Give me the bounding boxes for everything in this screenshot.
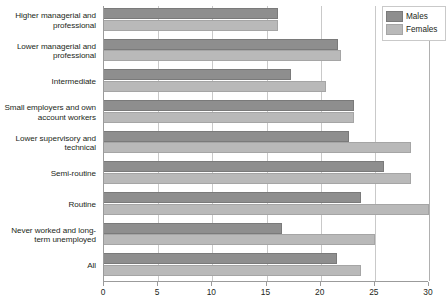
- bar-males: [104, 100, 354, 111]
- bar-group: [104, 37, 428, 68]
- plot-area: [103, 6, 428, 282]
- bar-males: [104, 223, 282, 234]
- x-tick-label-5: 5: [155, 287, 160, 297]
- x-tick-mark-0: [103, 282, 104, 286]
- y-axis-label-7: Never worked and long-term unemployed: [0, 226, 96, 245]
- y-axis-label-8: All: [0, 261, 96, 271]
- y-axis-label-line: account workers: [0, 113, 96, 123]
- bar-chart: Higher managerial andprofessionalLower m…: [0, 0, 448, 305]
- x-tick-mark-20: [320, 282, 321, 286]
- y-axis-label-line: Never worked and long-: [0, 226, 96, 236]
- y-axis-label-2: Intermediate: [0, 77, 96, 87]
- bar-males: [104, 161, 384, 172]
- bar-group: [104, 159, 428, 190]
- bar-males: [104, 253, 337, 264]
- x-tick-mark-5: [157, 282, 158, 286]
- legend-swatch-females-icon: [386, 24, 403, 35]
- chart-legend: Males Females: [382, 6, 446, 41]
- bar-females: [104, 112, 354, 123]
- x-tick-label-25: 25: [369, 287, 378, 297]
- legend-swatch-males-icon: [386, 11, 403, 22]
- legend-item-females: Females: [386, 23, 443, 36]
- bar-group: [104, 98, 428, 129]
- bar-females: [104, 20, 278, 31]
- y-axis-label-5: Semi-routine: [0, 169, 96, 179]
- bar-females: [104, 204, 429, 215]
- bar-males: [104, 39, 338, 50]
- bar-group: [104, 129, 428, 160]
- y-axis-label-line: Routine: [0, 200, 96, 210]
- gridline-30: [429, 6, 430, 281]
- y-axis-label-line: Small employers and own: [0, 103, 96, 113]
- y-axis-label-line: Lower managerial and: [0, 42, 96, 52]
- bar-females: [104, 142, 411, 153]
- y-axis-label-line: All: [0, 261, 96, 271]
- y-axis-label-0: Higher managerial andprofessional: [0, 11, 96, 30]
- bar-females: [104, 234, 375, 245]
- y-axis-label-4: Lower supervisory andtechnical: [0, 134, 96, 153]
- legend-item-males: Males: [386, 10, 443, 23]
- bar-group: [104, 221, 428, 252]
- x-tick-mark-15: [266, 282, 267, 286]
- y-axis-label-line: professional: [0, 51, 96, 61]
- bar-females: [104, 81, 326, 92]
- y-axis-label-line: Semi-routine: [0, 169, 96, 179]
- bar-group: [104, 251, 428, 282]
- bar-males: [104, 131, 349, 142]
- legend-label-females: Females: [406, 25, 437, 34]
- y-axis-label-line: technical: [0, 143, 96, 153]
- y-axis-label-line: Higher managerial and: [0, 11, 96, 21]
- x-tick-label-0: 0: [101, 287, 106, 297]
- y-axis-label-1: Lower managerial andprofessional: [0, 42, 96, 61]
- y-axis-label-line: term unemployed: [0, 235, 96, 245]
- bar-group: [104, 6, 428, 37]
- bar-females: [104, 173, 411, 184]
- x-tick-label-15: 15: [261, 287, 270, 297]
- y-axis-label-line: Lower supervisory and: [0, 134, 96, 144]
- bar-females: [104, 265, 361, 276]
- x-tick-mark-30: [428, 282, 429, 286]
- x-tick-mark-10: [211, 282, 212, 286]
- y-axis-label-3: Small employers and ownaccount workers: [0, 103, 96, 122]
- x-tick-label-30: 30: [423, 287, 432, 297]
- y-axis-label-line: Intermediate: [0, 77, 96, 87]
- y-axis-label-6: Routine: [0, 200, 96, 210]
- x-tick-label-10: 10: [207, 287, 216, 297]
- bar-group: [104, 190, 428, 221]
- x-tick-label-20: 20: [315, 287, 324, 297]
- legend-label-males: Males: [406, 12, 428, 21]
- bar-males: [104, 192, 361, 203]
- bar-group: [104, 67, 428, 98]
- x-tick-mark-25: [374, 282, 375, 286]
- bar-males: [104, 8, 278, 19]
- bar-males: [104, 69, 291, 80]
- y-axis-label-line: professional: [0, 21, 96, 31]
- bar-females: [104, 50, 341, 61]
